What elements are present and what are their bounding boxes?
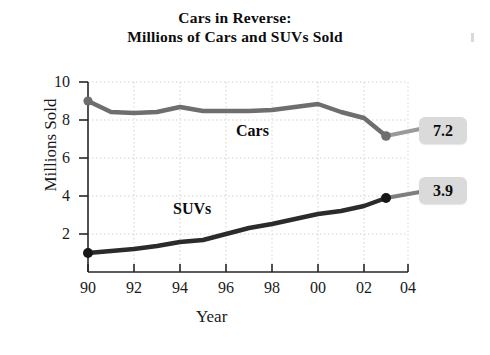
y-tick-label-8: 8 (44, 112, 70, 128)
y-tick-label-4: 4 (44, 188, 70, 204)
leader-line-suvs (386, 192, 420, 198)
series-marker-suvs-end (381, 193, 391, 203)
plot-area: Millions Sold 10 8 6 4 2 90 92 94 96 98 … (0, 0, 490, 355)
series-label-cars: Cars (236, 122, 269, 140)
series-marker-suvs-start (83, 248, 93, 258)
x-tick-label-94: 94 (163, 280, 197, 296)
series-marker-cars-start (83, 96, 92, 105)
series-marker-cars-end (381, 131, 391, 141)
x-tick-label-04: 04 (391, 280, 425, 296)
y-tick-label-10: 10 (44, 74, 70, 90)
x-tick-label-92: 92 (117, 280, 151, 296)
y-tick-label-2: 2 (44, 226, 70, 242)
x-axis-label: Year (196, 307, 227, 327)
plot-svg (0, 0, 490, 355)
callout-cars-value: 7.2 (419, 117, 467, 144)
x-tick-label-96: 96 (209, 280, 243, 296)
x-tick-label-02: 02 (347, 280, 381, 296)
y-axis-label: Millions Sold (41, 85, 61, 205)
series-line-suvs (88, 198, 386, 253)
x-tick-label-98: 98 (255, 280, 289, 296)
series-label-suvs: SUVs (173, 200, 211, 218)
callout-leader-lines (386, 129, 420, 198)
y-tick-label-6: 6 (44, 150, 70, 166)
x-tick-label-00: 00 (301, 280, 335, 296)
leader-line-cars (386, 129, 420, 136)
callout-suvs-value: 3.9 (419, 177, 467, 204)
x-axis-ticks (88, 264, 408, 272)
x-tick-label-90: 90 (71, 280, 105, 296)
grid-horizontal (88, 82, 408, 234)
chart-screenshot: Cars in Reverse: Millions of Cars and SU… (0, 0, 490, 355)
